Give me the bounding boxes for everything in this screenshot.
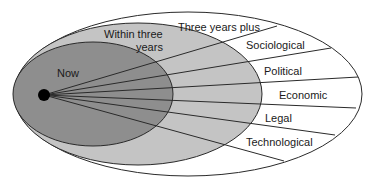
origin-dot [38, 89, 50, 101]
pest-time-horizon-diagram: Now Within three years Three years plus … [0, 0, 369, 187]
label-sociological: Sociological [246, 39, 305, 51]
label-now: Now [57, 67, 79, 79]
inner-zone-ellipse [13, 42, 173, 146]
label-within-three-years-line1: Within three [104, 28, 163, 40]
label-economic: Economic [279, 89, 328, 101]
label-three-years-plus: Three years plus [178, 21, 260, 33]
label-technological: Technological [246, 136, 313, 148]
label-within-three-years-line2: years [136, 41, 163, 53]
label-political: Political [264, 65, 302, 77]
label-legal: Legal [265, 112, 292, 124]
